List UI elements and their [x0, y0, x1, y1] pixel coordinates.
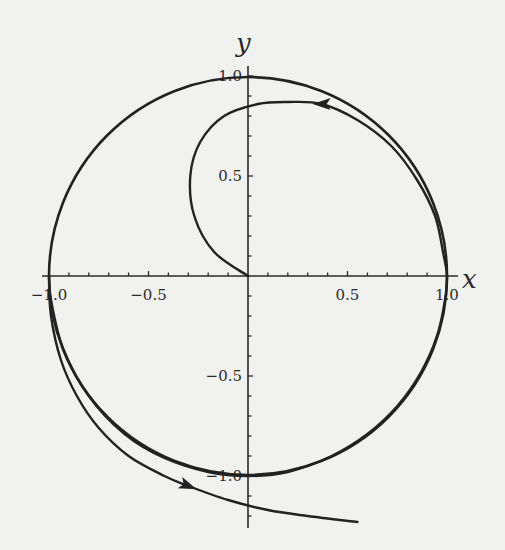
y-axis-label: y [235, 28, 251, 58]
x-axis-label: x [462, 264, 477, 294]
arrow-icon [313, 98, 331, 110]
x-tick-label: −0.5 [130, 286, 166, 304]
direction-arrows [178, 98, 331, 495]
arrow-icon [178, 477, 199, 495]
x-tick-label: 0.5 [336, 286, 360, 304]
y-tick-label: −0.5 [206, 367, 242, 385]
y-tick-label: 0.5 [218, 167, 242, 185]
axes [42, 66, 458, 528]
phase-plot: −1.0−0.50.51.01.00.5−0.5−1.0 x y [0, 0, 505, 550]
